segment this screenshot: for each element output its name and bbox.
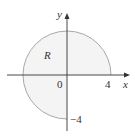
x-axis-label: x bbox=[122, 78, 128, 90]
x-axis-arrow-icon bbox=[124, 73, 130, 78]
region-diagram: y x R 0 4 −4 bbox=[0, 0, 135, 137]
y-axis-label: y bbox=[56, 8, 62, 20]
region-label: R bbox=[43, 49, 51, 61]
origin-label: 0 bbox=[57, 78, 63, 90]
x-tick-label: 4 bbox=[105, 78, 111, 90]
y-tick-label: −4 bbox=[70, 113, 82, 125]
y-axis-arrow-icon bbox=[65, 13, 70, 19]
